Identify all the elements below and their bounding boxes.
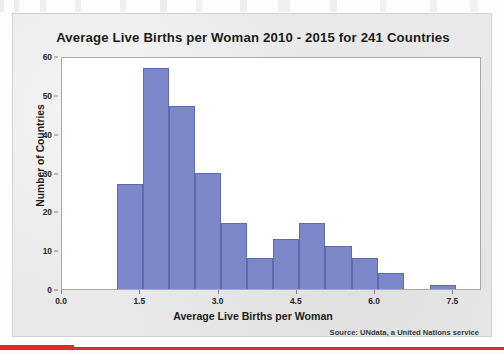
y-tick-mark	[54, 134, 58, 135]
histogram-bar	[299, 223, 325, 289]
y-tick-mark	[54, 212, 58, 213]
chart-panel: Average Live Births per Woman 2010 - 201…	[12, 13, 492, 337]
x-tick-label: 0.0	[55, 296, 67, 306]
source-note: Source: UNdata, a United Nations service	[330, 328, 479, 337]
histogram-bar	[169, 106, 195, 289]
histogram-bar	[143, 68, 169, 289]
histogram-bar	[352, 258, 378, 289]
y-tick-label: 0	[47, 285, 52, 295]
y-tick-label: 50	[43, 91, 52, 101]
y-tick-mark	[54, 251, 58, 252]
x-tick-mark	[452, 290, 453, 294]
y-tick-mark	[54, 95, 58, 96]
x-tick-label: 7.5	[446, 296, 458, 306]
x-tick-mark	[296, 290, 297, 294]
y-tick-label: 10	[43, 246, 52, 256]
y-tick-mark	[54, 57, 58, 58]
page-bottom-margin	[0, 350, 504, 354]
histogram-bar	[195, 173, 221, 290]
x-tick-label: 4.5	[290, 296, 302, 306]
chart-title: Average Live Births per Woman 2010 - 201…	[13, 30, 493, 45]
x-tick-mark	[218, 290, 219, 294]
x-tick-label: 1.5	[133, 296, 145, 306]
histogram-bar	[325, 246, 351, 289]
x-axis: 0.01.53.04.56.07.5	[61, 290, 481, 308]
histogram-bar	[378, 273, 404, 289]
scan-artifact-top	[0, 0, 504, 12]
x-axis-title: Average Live Births per Woman	[13, 310, 493, 322]
x-tick-mark	[139, 290, 140, 294]
x-tick-mark	[374, 290, 375, 294]
y-tick-label: 60	[43, 52, 52, 62]
histogram-bar	[247, 258, 273, 289]
x-tick-label: 6.0	[368, 296, 380, 306]
y-tick-mark	[54, 173, 58, 174]
histogram-bar	[273, 239, 299, 289]
scanned-page: Average Live Births per Woman 2010 - 201…	[0, 0, 504, 354]
y-tick-label: 20	[43, 207, 52, 217]
histogram-bars	[62, 58, 480, 289]
y-tick-mark	[54, 290, 58, 291]
y-axis: Number of Countries 0102030405060	[13, 57, 58, 290]
y-tick-label: 40	[43, 130, 52, 140]
histogram-bar	[117, 184, 143, 289]
plot-frame	[61, 57, 481, 290]
histogram-bar	[221, 223, 247, 289]
x-tick-label: 3.0	[212, 296, 224, 306]
histogram-bar	[430, 285, 456, 289]
x-tick-mark	[61, 290, 62, 294]
y-tick-label: 30	[43, 169, 52, 179]
